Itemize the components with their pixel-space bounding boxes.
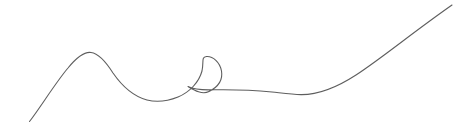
artwork-canvas — [0, 0, 462, 132]
curve-svg — [0, 0, 462, 132]
